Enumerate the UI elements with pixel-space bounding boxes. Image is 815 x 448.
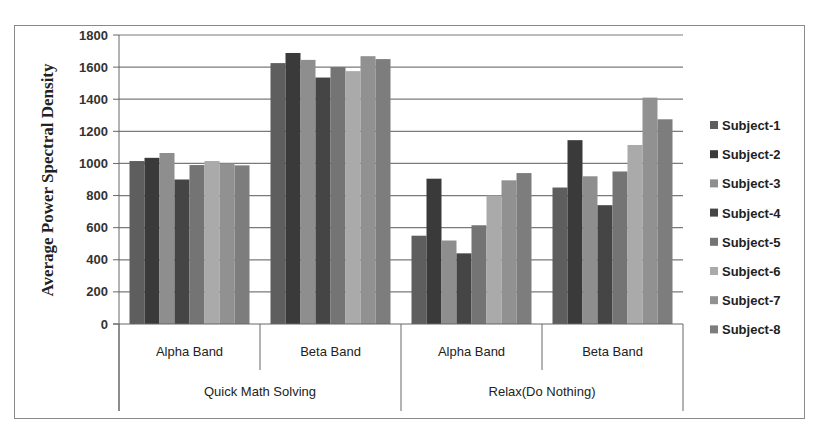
legend-item: Subject-3 [710,176,781,191]
bar-subject-6 [628,145,643,324]
bar-subject-1 [130,161,145,324]
legend-item: Subject-7 [710,293,781,308]
bar-subject-5 [190,165,205,324]
category-label: Alpha Band [156,344,223,359]
group-label: Relax(Do Nothing) [489,384,596,399]
legend-swatch-icon [710,121,718,129]
bar-subject-1 [271,63,286,324]
group-label: Quick Math Solving [204,384,316,399]
legend-label: Subject-4 [722,206,781,221]
y-tick-label: 600 [86,220,108,235]
bar-subject-4 [457,253,472,324]
y-tick-label: 1200 [79,124,108,139]
category-label: Beta Band [582,344,643,359]
legend-label: Subject-3 [722,176,781,191]
bar-subject-1 [553,188,568,324]
y-tick-label: 1800 [79,28,108,43]
x-axis-categories: Alpha BandBeta BandAlpha BandBeta BandQu… [119,324,683,411]
legend-item: Subject-8 [710,322,781,337]
bar-subject-3 [442,241,457,324]
legend: Subject-1Subject-2Subject-3Subject-4Subj… [710,118,781,337]
y-tick-label: 200 [86,284,108,299]
bar-subject-2 [286,53,301,324]
bar-subject-5 [472,225,487,324]
legend-label: Subject-1 [722,118,781,133]
bar-subject-2 [568,140,583,324]
bar-subject-5 [331,67,346,324]
bar-subject-3 [160,153,175,324]
legend-swatch-icon [710,325,718,333]
bar-subject-7 [643,98,658,324]
legend-item: Subject-5 [710,235,781,250]
legend-label: Subject-2 [722,147,781,162]
legend-label: Subject-8 [722,322,781,337]
category-label: Alpha Band [438,344,505,359]
bar-subject-7 [502,180,517,324]
bar-subject-4 [175,180,190,325]
legend-item: Subject-4 [710,206,781,221]
bar-subject-6 [205,161,220,324]
bar-subject-5 [613,171,628,324]
bar-subject-2 [427,179,442,324]
category-label: Beta Band [300,344,361,359]
y-tick-label: 1600 [79,60,108,75]
legend-label: Subject-5 [722,235,781,250]
legend-label: Subject-7 [722,293,781,308]
bar-subject-6 [487,196,502,324]
legend-swatch-icon [710,296,718,304]
legend-swatch-icon [710,150,718,158]
bar-subject-8 [235,165,250,324]
legend-swatch-icon [710,238,718,246]
bar-subject-3 [301,60,316,324]
bar-chart: 020040060080010001200140016001800 Alpha … [0,0,815,448]
y-tick-label: 400 [86,252,108,267]
legend-item: Subject-6 [710,264,781,279]
bar-subject-7 [361,56,376,324]
y-tick-label: 800 [86,188,108,203]
bar-subject-7 [220,163,235,324]
legend-label: Subject-6 [722,264,781,279]
legend-item: Subject-1 [710,118,781,133]
bar-subject-3 [583,176,598,324]
bar-subject-4 [598,205,613,324]
y-tick-label: 1400 [79,92,108,107]
y-axis-label: Average Power Spectral Density [38,63,57,297]
y-tick-label: 0 [101,317,108,332]
y-tick-label: 1000 [79,156,108,171]
bar-subject-8 [517,173,532,324]
legend-swatch-icon [710,267,718,275]
bar-subject-4 [316,78,331,324]
bar-subject-8 [376,59,391,324]
legend-swatch-icon [710,179,718,187]
bar-subject-6 [346,71,361,324]
y-axis-ticks: 020040060080010001200140016001800 [79,28,108,332]
legend-item: Subject-2 [710,147,781,162]
bar-subject-2 [145,158,160,324]
bars [130,53,673,324]
bar-subject-1 [412,236,427,324]
bar-subject-8 [658,119,673,324]
legend-swatch-icon [710,209,718,217]
